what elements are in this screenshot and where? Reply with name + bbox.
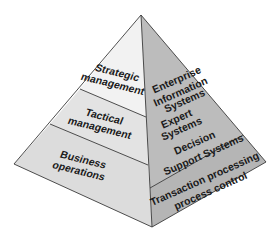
pyramid-diagram: Strategic management Tactical management… (0, 0, 278, 237)
